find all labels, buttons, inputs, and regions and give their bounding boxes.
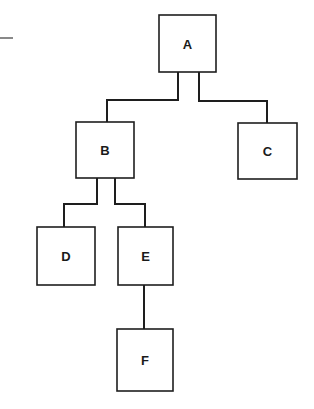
node-d-label: D: [61, 249, 70, 264]
node-e-label: E: [141, 249, 150, 264]
node-e: E: [118, 227, 173, 285]
node-a: A: [159, 15, 216, 72]
tree-diagram: A B C D E F: [0, 0, 314, 409]
edge-b-e: [115, 178, 145, 227]
node-c-label: C: [263, 144, 273, 159]
node-c: C: [238, 123, 297, 179]
node-b-label: B: [100, 143, 109, 158]
node-f-label: F: [141, 353, 149, 368]
node-d: D: [37, 227, 95, 285]
node-a-label: A: [183, 37, 193, 52]
node-b: B: [76, 122, 134, 178]
edge-a-b: [107, 72, 178, 122]
edge-a-c: [199, 72, 267, 123]
node-f: F: [117, 329, 173, 391]
edge-b-d: [64, 178, 97, 227]
edges: [64, 72, 267, 329]
